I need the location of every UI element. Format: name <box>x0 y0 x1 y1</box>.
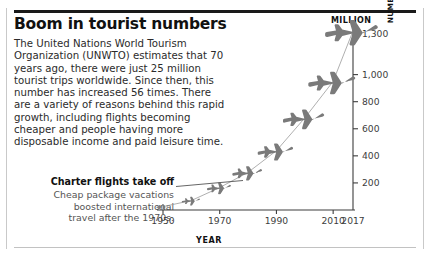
svg-text:2017: 2017 <box>341 215 365 226</box>
chart-canvas: 195019701990201020172004006008001,0001,3… <box>150 14 418 240</box>
svg-text:1990: 1990 <box>265 215 289 226</box>
data-point-plane <box>308 72 355 95</box>
svg-text:1,300: 1,300 <box>362 28 388 39</box>
data-point-plane <box>156 204 168 210</box>
infographic-panel: Boom in tourist numbers The United Natio… <box>0 0 430 257</box>
svg-text:1,000: 1,000 <box>362 69 388 80</box>
tourism-line-chart: 195019701990201020172004006008001,0001,3… <box>150 14 418 240</box>
data-point-plane <box>207 183 231 195</box>
svg-text:1950: 1950 <box>151 215 175 226</box>
svg-text:200: 200 <box>362 177 380 188</box>
bottom-rule <box>14 247 416 248</box>
frame-left-border <box>6 8 7 249</box>
title-rule <box>14 10 416 13</box>
svg-text:400: 400 <box>362 150 380 161</box>
data-point-plane <box>283 109 324 129</box>
svg-text:1970: 1970 <box>208 215 232 226</box>
svg-text:800: 800 <box>362 96 380 107</box>
frame-right-border <box>423 8 424 249</box>
svg-text:600: 600 <box>362 123 380 134</box>
data-point-plane <box>258 143 293 160</box>
